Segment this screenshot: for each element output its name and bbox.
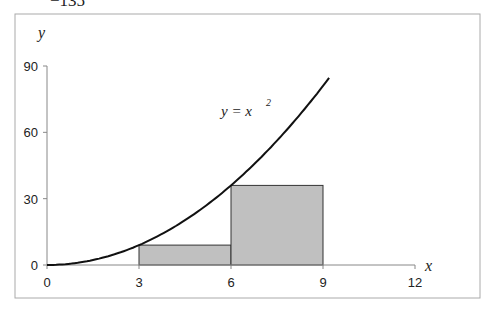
y-axis-label: y bbox=[36, 24, 46, 42]
x-tick-label: 12 bbox=[408, 275, 422, 290]
approximation-rectangle bbox=[231, 185, 323, 265]
y-tick-label: 60 bbox=[24, 125, 38, 140]
chart: 0369120306090xyy = x2 bbox=[0, 0, 490, 313]
y-tick-label: 0 bbox=[31, 258, 38, 273]
curve-label-exponent: 2 bbox=[266, 97, 271, 108]
y-tick-label: 90 bbox=[24, 59, 38, 74]
x-tick-label: 9 bbox=[319, 275, 326, 290]
y-tick-label: 30 bbox=[24, 192, 38, 207]
approximation-rectangle bbox=[139, 245, 231, 265]
x-tick-label: 0 bbox=[43, 275, 50, 290]
x-axis-label: x bbox=[424, 257, 432, 274]
x-tick-label: 3 bbox=[135, 275, 142, 290]
curve-label: y = x bbox=[219, 103, 252, 119]
x-tick-label: 6 bbox=[227, 275, 234, 290]
